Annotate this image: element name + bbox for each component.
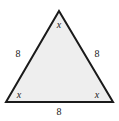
triangle-figure: x x x 8 8 8 [0, 0, 119, 121]
side-label-bottom: 8 [57, 107, 62, 117]
angle-label-bottom-left: x [17, 90, 21, 100]
side-label-left: 8 [16, 49, 21, 59]
angle-label-bottom-right: x [95, 90, 99, 100]
side-label-right: 8 [95, 49, 100, 59]
angle-label-apex: x [57, 20, 61, 30]
